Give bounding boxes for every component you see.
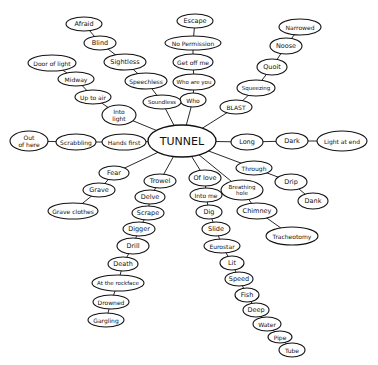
- bubble-tracheotomy: Tracheotomy: [266, 227, 318, 245]
- bubble-label: Digger: [128, 225, 150, 233]
- bubble-label: Narrowed: [286, 24, 315, 31]
- bubble-outofhere: Outof here: [10, 131, 48, 151]
- bubble-lightatend: Light at end: [317, 131, 367, 151]
- bubble-delve: Delve: [135, 190, 165, 204]
- bubble-atrockface: At the rockface: [92, 275, 144, 291]
- bubble-label: Grave clothes: [52, 208, 94, 215]
- bubble-pipe: Pipe: [268, 331, 292, 343]
- bubble-label: Get off me: [177, 59, 209, 66]
- word-bubbles: EscapeNo PermissionGet off meWho are you…: [10, 14, 367, 357]
- bubble-lit: Lit: [220, 256, 244, 270]
- bubble-fear: Fear: [99, 166, 129, 180]
- mind-map-canvas: EscapeNo PermissionGet off meWho are you…: [0, 0, 378, 365]
- bubble-label: Blind: [92, 39, 108, 47]
- bubble-label: Sightless: [110, 58, 140, 66]
- bubble-label: Through: [241, 165, 267, 173]
- bubble-label: Lit: [228, 259, 236, 267]
- bubble-uptoair: Up to air: [75, 90, 111, 104]
- mind-map-svg: EscapeNo PermissionGet off meWho are you…: [0, 0, 378, 365]
- bubble-label: BLAST: [226, 104, 246, 111]
- bubble-label: Grave: [89, 186, 109, 194]
- bubble-noose: Noose: [270, 38, 302, 54]
- bubble-drowned: Drowned: [93, 295, 129, 309]
- bubble-label: Water: [258, 321, 276, 328]
- bubble-who: Who: [180, 93, 206, 107]
- bubble-narrowed: Narrowed: [279, 19, 321, 35]
- bubble-label: No Permission: [172, 40, 215, 47]
- bubble-slide: Slide: [202, 222, 230, 236]
- bubble-label: Noose: [276, 42, 296, 50]
- bubble-label: Gargling: [93, 317, 119, 325]
- bubble-label: Deep: [247, 306, 264, 314]
- bubble-chimney: Chimney: [237, 203, 277, 219]
- bubble-label: Eurostar: [209, 243, 235, 250]
- bubble-label: Squeezing: [242, 85, 271, 92]
- bubble-intolight: Intolight: [102, 105, 136, 125]
- bubble-label: Scrabbling: [60, 139, 92, 147]
- bubble-label: Door of light: [33, 60, 71, 68]
- bubble-midway: Midway: [58, 72, 94, 86]
- bubble-through: Through: [236, 161, 272, 175]
- central-topic-label: TUNNEL: [159, 135, 205, 148]
- bubble-escape: Escape: [177, 14, 213, 28]
- bubble-gargling: Gargling: [88, 313, 124, 327]
- bubble-intome: Into me: [190, 188, 222, 202]
- bubble-label: Pipe: [274, 334, 287, 342]
- bubble-label: Midway: [65, 76, 88, 84]
- bubble-label: Intolight: [112, 108, 126, 122]
- bubble-blind: Blind: [84, 36, 116, 50]
- bubble-drip: Drip: [275, 174, 307, 190]
- bubble-label: Dark: [284, 137, 300, 145]
- bubble-label: Into me: [194, 192, 217, 199]
- bubble-label: At the rockface: [97, 280, 139, 286]
- bubble-drill: Drill: [117, 238, 149, 254]
- bubble-label: Delve: [141, 193, 160, 201]
- bubble-label: Speed: [229, 275, 249, 283]
- bubble-tube: Tube: [279, 343, 305, 357]
- bubble-breathinghole: Breathinghole: [221, 180, 263, 200]
- bubble-label: Drill: [126, 242, 139, 250]
- bubble-graveclothes: Grave clothes: [48, 203, 98, 219]
- bubble-grave: Grave: [83, 183, 115, 197]
- bubble-digger: Digger: [123, 222, 155, 236]
- bubble-label: Dig: [204, 208, 215, 216]
- bubble-death: Death: [108, 257, 138, 271]
- bubble-label: Quoit: [263, 63, 281, 71]
- bubble-scrape: Scrape: [132, 206, 164, 220]
- bubble-blast: BLAST: [220, 100, 252, 114]
- central-topic: TUNNEL: [148, 125, 216, 157]
- bubble-label: Drowned: [98, 299, 125, 306]
- bubble-oflove: Of love: [189, 170, 221, 186]
- bubble-afraid: Afraid: [66, 17, 102, 31]
- bubble-label: Slide: [208, 225, 224, 233]
- bubble-label: Who: [186, 97, 200, 104]
- bubble-label: Up to air: [80, 94, 106, 102]
- bubble-fish: Fish: [235, 288, 259, 302]
- bubble-label: Dank: [305, 197, 322, 205]
- bubble-label: Who are you: [177, 79, 212, 86]
- bubble-getoffme: Get off me: [173, 54, 213, 70]
- bubble-dark: Dark: [276, 133, 308, 149]
- bubble-label: Tube: [284, 347, 299, 354]
- bubble-scrabbling: Scrabbling: [56, 134, 96, 150]
- bubble-hands: Hands first: [102, 134, 146, 150]
- bubble-label: Soundless: [148, 99, 176, 105]
- bubble-whoareyou: Who are you: [173, 74, 215, 90]
- bubble-label: Fear: [107, 169, 121, 177]
- bubble-label: Of love: [193, 174, 216, 182]
- bubble-label: Chimney: [243, 207, 272, 215]
- bubble-label: Light at end: [324, 138, 360, 146]
- bubble-eurostar: Eurostar: [204, 239, 240, 253]
- bubble-label: Speechless: [129, 78, 163, 86]
- bubble-deep: Deep: [243, 303, 269, 317]
- bubble-label: Long: [239, 138, 255, 146]
- bubble-speed: Speed: [225, 272, 253, 286]
- bubble-label: Afraid: [74, 20, 93, 28]
- bubble-label: Drip: [284, 178, 298, 186]
- bubble-label: Escape: [183, 17, 206, 25]
- bubble-label: Trowel: [149, 177, 171, 185]
- bubble-water: Water: [253, 317, 281, 331]
- bubble-label: Tracheotomy: [272, 233, 312, 241]
- bubble-nopermission: No Permission: [165, 36, 221, 50]
- bubble-label: Hands first: [108, 139, 141, 146]
